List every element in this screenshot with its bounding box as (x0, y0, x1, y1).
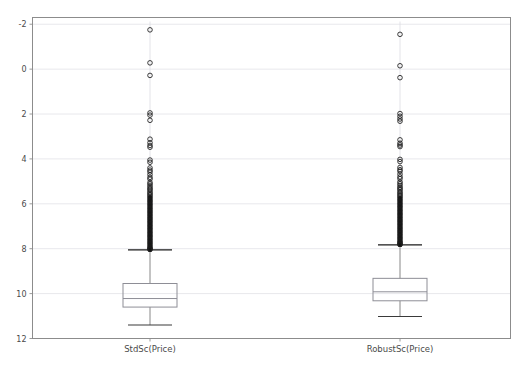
x-tick-labels: StdSc(Price)RobustSc(Price) (124, 344, 433, 354)
x-tick-label: RobustSc(Price) (367, 344, 434, 354)
plot-frame (33, 18, 511, 339)
y-tick-label: 10 (16, 290, 26, 299)
y-tick-label: 12 (16, 335, 26, 344)
y-tick-label: 4 (21, 155, 26, 164)
y-gridlines (33, 24, 511, 338)
box-series (123, 22, 427, 326)
boxplot-figure: 121086420-2 StdSc(Price)RobustSc(Price) (0, 0, 527, 370)
y-tick-label: 6 (21, 200, 26, 209)
x-tick-label: StdSc(Price) (124, 344, 176, 354)
box-iqr (373, 278, 427, 300)
box-iqr (123, 284, 177, 308)
y-tick-label: 8 (21, 245, 26, 254)
y-tick-label: -2 (19, 20, 27, 29)
y-tick-label: 0 (21, 65, 26, 74)
y-tick-labels: 121086420-2 (16, 20, 26, 343)
boxplot-1 (373, 22, 427, 317)
boxplot-canvas: 121086420-2 StdSc(Price)RobustSc(Price) (0, 0, 527, 370)
outlier-point (148, 247, 152, 251)
boxplot-0 (123, 22, 177, 326)
outlier-point (398, 243, 402, 247)
y-tick-label: 2 (21, 110, 26, 119)
